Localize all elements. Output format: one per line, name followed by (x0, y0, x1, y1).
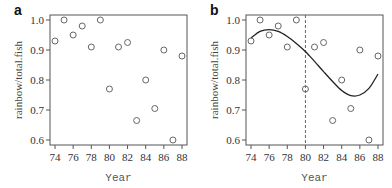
scatter-plot-b: 0.60.70.80.91.07476788082848688Yearrainb… (196, 0, 392, 188)
x-tick-label: 74 (50, 151, 62, 163)
x-tick-label: 86 (354, 151, 366, 163)
data-point (79, 23, 85, 29)
data-point (61, 17, 67, 23)
data-point (293, 17, 299, 23)
data-point (339, 77, 345, 83)
x-tick-label: 88 (177, 151, 189, 163)
x-tick-label: 88 (373, 151, 385, 163)
x-axis-label: Year (105, 172, 131, 184)
y-tick-label: 1.0 (30, 14, 44, 26)
data-point (266, 32, 272, 38)
x-tick-label: 78 (86, 151, 98, 163)
y-tick-label: 0.9 (226, 44, 240, 56)
y-tick-label: 0.6 (30, 134, 44, 146)
data-point (275, 23, 281, 29)
panel-a: a 0.60.70.80.91.07476788082848688Yearrai… (0, 0, 196, 188)
y-axis-label: rainbow/total.fish (208, 41, 220, 119)
x-tick-label: 82 (122, 151, 133, 163)
data-point (284, 44, 290, 50)
data-point (348, 106, 354, 112)
x-tick-label: 82 (318, 151, 329, 163)
x-tick-label: 78 (282, 151, 294, 163)
data-point (97, 17, 103, 23)
x-tick-label: 76 (264, 151, 276, 163)
data-point (116, 44, 122, 50)
x-tick-label: 80 (104, 151, 116, 163)
data-point (179, 53, 185, 59)
data-point (330, 118, 336, 124)
y-tick-label: 0.7 (30, 104, 44, 116)
data-point (321, 40, 327, 46)
data-point (312, 44, 318, 50)
y-tick-label: 0.9 (30, 44, 44, 56)
data-point (366, 137, 372, 143)
data-point (88, 44, 94, 50)
data-point (170, 137, 176, 143)
data-point (134, 118, 140, 124)
data-point (375, 53, 381, 59)
fitted-curve (251, 30, 378, 96)
y-tick-label: 1.0 (226, 14, 240, 26)
x-tick-label: 80 (300, 151, 312, 163)
x-axis-label: Year (301, 172, 327, 184)
panel-b: b 0.60.70.80.91.07476788082848688Yearrai… (196, 0, 392, 188)
x-tick-label: 76 (68, 151, 80, 163)
y-tick-label: 0.6 (226, 134, 240, 146)
data-point (143, 77, 149, 83)
data-point (161, 47, 167, 53)
x-tick-label: 84 (140, 151, 152, 163)
data-point (357, 47, 363, 53)
y-tick-label: 0.8 (30, 74, 44, 86)
y-axis-label: rainbow/total.fish (12, 41, 24, 119)
y-tick-label: 0.7 (226, 104, 240, 116)
x-tick-label: 74 (246, 151, 258, 163)
data-point (52, 38, 58, 44)
y-tick-label: 0.8 (226, 74, 240, 86)
data-point (152, 106, 158, 112)
x-tick-label: 86 (158, 151, 170, 163)
data-point (106, 86, 112, 92)
x-tick-label: 84 (336, 151, 348, 163)
scatter-plot-a: 0.60.70.80.91.07476788082848688Yearrainb… (0, 0, 196, 188)
data-point (257, 17, 263, 23)
data-point (70, 32, 76, 38)
data-point (125, 40, 131, 46)
data-point (248, 38, 254, 44)
